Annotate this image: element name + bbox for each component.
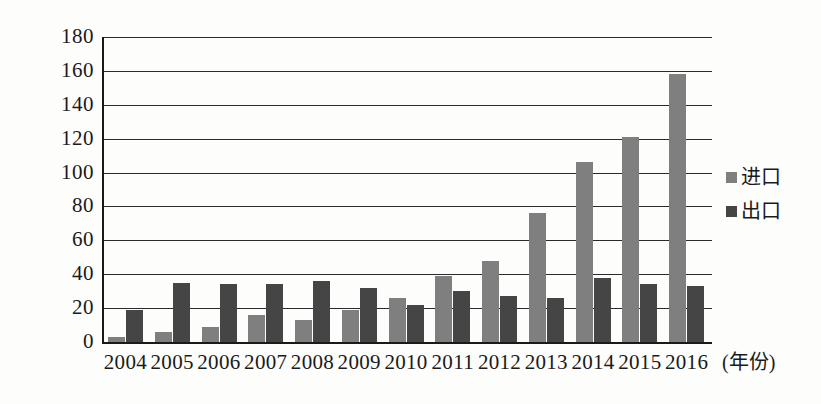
plot-area xyxy=(102,37,712,344)
bar-group-2009 xyxy=(338,37,385,342)
export-swatch-icon xyxy=(726,206,737,217)
bar-group-2014 xyxy=(572,37,619,342)
bar-2016-进口 xyxy=(669,74,686,342)
y-tick-label: 20 xyxy=(10,297,94,318)
bar-2009-进口 xyxy=(342,310,359,342)
bar-group-2007 xyxy=(244,37,291,342)
bars-layer xyxy=(104,37,712,342)
bar-group-2013 xyxy=(525,37,572,342)
y-tick-label: 0 xyxy=(10,331,94,352)
bar-2011-出口 xyxy=(453,291,470,342)
y-tick-label: 60 xyxy=(10,229,94,250)
y-tick-label: 140 xyxy=(10,94,94,115)
bar-group-2004 xyxy=(104,37,151,342)
bar-group-2005 xyxy=(151,37,198,342)
bar-2004-进口 xyxy=(108,337,125,342)
bar-2008-出口 xyxy=(313,281,330,342)
bar-2007-进口 xyxy=(248,315,265,342)
bar-2005-进口 xyxy=(155,332,172,342)
y-tick-label: 40 xyxy=(10,263,94,284)
bar-2004-出口 xyxy=(126,310,143,342)
bar-2013-出口 xyxy=(547,298,564,342)
legend-label: 出口 xyxy=(741,201,781,221)
bar-2012-出口 xyxy=(500,296,517,342)
y-tick-label: 120 xyxy=(10,128,94,149)
y-tick-label: 100 xyxy=(10,162,94,183)
import-swatch-icon xyxy=(726,172,737,183)
legend-item-出口[interactable]: 出口 xyxy=(726,194,818,228)
bar-2014-出口 xyxy=(594,278,611,342)
y-tick-label: 80 xyxy=(10,195,94,216)
y-tick-label: 160 xyxy=(10,60,94,81)
bar-2014-进口 xyxy=(576,162,593,342)
bar-2015-进口 xyxy=(622,137,639,342)
bar-group-2011 xyxy=(431,37,478,342)
bar-group-2015 xyxy=(618,37,665,342)
bar-2016-出口 xyxy=(687,286,704,342)
bar-group-2012 xyxy=(478,37,525,342)
bar-2010-出口 xyxy=(407,305,424,342)
bar-chart: 020406080100120140160180 200420052006200… xyxy=(0,0,821,404)
y-axis-tick-labels: 020406080100120140160180 xyxy=(0,0,94,404)
x-axis-title: (年份) xyxy=(722,350,775,374)
bar-2006-进口 xyxy=(202,327,219,342)
bar-group-2006 xyxy=(198,37,245,342)
bar-2005-出口 xyxy=(173,283,190,342)
chart-legend: 进口出口 xyxy=(726,160,818,228)
bar-group-2010 xyxy=(385,37,432,342)
bar-2012-进口 xyxy=(482,261,499,342)
x-axis-tick-labels: 2004200520062007200820092010201120122013… xyxy=(102,350,710,380)
bar-2013-进口 xyxy=(529,213,546,342)
bar-2006-出口 xyxy=(220,284,237,342)
bar-2010-进口 xyxy=(389,298,406,342)
legend-item-进口[interactable]: 进口 xyxy=(726,160,818,194)
bar-2009-出口 xyxy=(360,288,377,342)
bar-group-2016 xyxy=(665,37,712,342)
bar-2007-出口 xyxy=(266,284,283,342)
x-tick-label-2016: 2016 xyxy=(658,350,716,374)
legend-label: 进口 xyxy=(741,167,781,187)
bar-2011-进口 xyxy=(435,276,452,342)
bar-group-2008 xyxy=(291,37,338,342)
y-tick-label: 180 xyxy=(10,26,94,47)
bar-2008-进口 xyxy=(295,320,312,342)
bar-2015-出口 xyxy=(640,284,657,342)
